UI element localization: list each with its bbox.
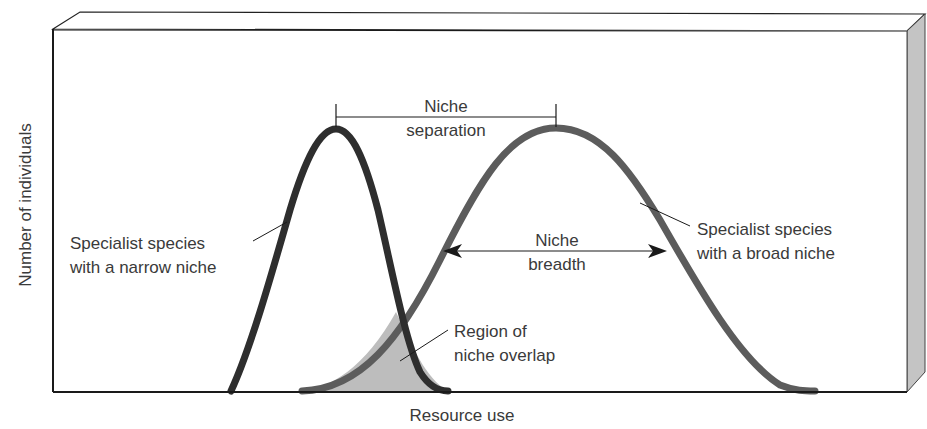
separation-label-line1: Niche (424, 97, 467, 116)
box-side-face (907, 14, 925, 392)
broad-label-line2: with a broad niche (696, 244, 835, 263)
y-axis-label: Number of individuals (16, 123, 35, 286)
narrow-label-line1: Specialist species (70, 234, 205, 253)
box-top-face (53, 12, 925, 31)
breadth-label-line2: breadth (528, 255, 586, 274)
overlap-label-line1: Region of (454, 322, 527, 341)
narrow-label-line2: with a narrow niche (69, 258, 216, 277)
overlap-label-line2: niche overlap (454, 346, 555, 365)
niche-diagram: Niche separation Niche breadth Specialis… (0, 0, 927, 429)
broad-label-line1: Specialist species (697, 220, 832, 239)
x-axis-label: Resource use (410, 406, 515, 425)
separation-label-line2: separation (406, 121, 485, 140)
breadth-label-line1: Niche (535, 231, 578, 250)
